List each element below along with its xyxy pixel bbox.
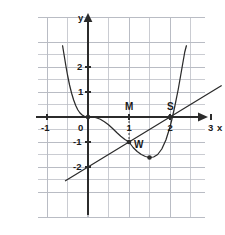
y-tick-label-2: 2 — [77, 62, 82, 72]
y-tick-label-1: 1 — [78, 87, 83, 97]
x-tick-label-neg1: -1 — [41, 123, 49, 133]
point-label-m: M — [125, 102, 133, 112]
y-axis-label: y — [78, 13, 83, 23]
data-series-layer — [63, 46, 222, 181]
coordinate-graph-figure: -1123x21-1-20yMSW — [0, 0, 225, 235]
y-tick-label-neg2: -2 — [73, 162, 81, 172]
x-tick-label-2: 2 — [168, 123, 173, 133]
plot-canvas — [0, 0, 225, 235]
origin-label: 0 — [78, 123, 83, 133]
y-tick-label-neg1: -1 — [73, 137, 81, 147]
point-label-s: S — [167, 102, 174, 112]
point-label-w: W — [134, 140, 143, 150]
axis-layer — [36, 13, 211, 215]
x-axis-label: x — [217, 123, 222, 133]
x-tick-label-1: 1 — [127, 123, 132, 133]
x-tick-label-3: 3 — [208, 123, 213, 133]
